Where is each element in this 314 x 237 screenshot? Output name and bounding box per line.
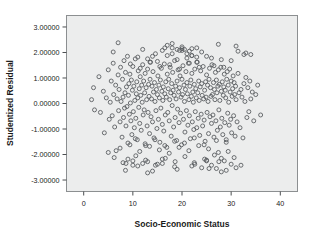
chart-canvas: 010203040 3.000002.000001.000000.00000-1…: [0, 0, 314, 237]
y-tick-label: 1.00000: [34, 74, 60, 83]
y-tick-label: 2.00000: [34, 48, 60, 57]
y-tick-label: 3.00000: [34, 23, 60, 32]
x-tick-label: 30: [227, 199, 235, 208]
plot-area-background: [67, 16, 298, 192]
y-axis-title: Studentized Residual: [5, 60, 15, 146]
x-tick-label: 10: [129, 199, 137, 208]
y-tick-label: -1.00000: [31, 125, 59, 134]
x-tick-label: 0: [82, 199, 86, 208]
x-tick-label: 20: [178, 199, 186, 208]
scatter-chart: 010203040 3.000002.000001.000000.00000-1…: [0, 0, 314, 237]
y-tick-label: -2.00000: [31, 150, 59, 159]
x-axis-title: Socio-Economic Status: [135, 219, 230, 229]
x-tick-label: 40: [276, 199, 284, 208]
y-tick-label: -3.00000: [31, 176, 59, 185]
y-tick-label: 0.00000: [34, 99, 60, 108]
